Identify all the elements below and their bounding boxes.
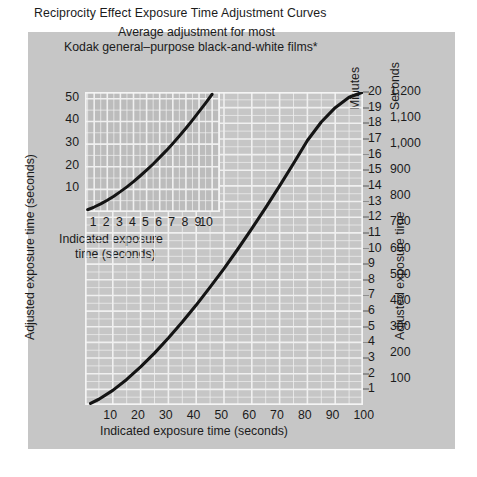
inset-x-tick-label-7: 7 [168,215,175,229]
x-tick-label-main-60: 60 [242,408,256,422]
minute-tick-label-7: 7 [368,287,375,301]
x-tick-label-main-10: 10 [103,408,117,422]
minute-tick-label-3: 3 [368,350,375,364]
second-tick-label-400: 400 [390,293,411,307]
inset-x-tick-label-5: 5 [142,215,149,229]
second-tick-label-900: 900 [390,162,411,176]
second-tick-label-100: 100 [390,371,411,385]
x-tick-label-main-90: 90 [326,408,340,422]
minute-tick-label-9: 9 [368,256,375,270]
minute-tick-label-20: 20 [368,84,382,98]
second-tick-label-300: 300 [390,319,411,333]
second-tick-label-800: 800 [390,188,411,202]
minute-tick-label-15: 15 [368,162,382,176]
x-tick-label-main-20: 20 [131,408,145,422]
inset-x-tick-label-10: 10 [199,215,213,229]
y-tick-label-left-30: 30 [49,135,79,149]
y-tick-label-left-20: 20 [49,158,79,172]
minute-tick-label-19: 19 [368,100,382,114]
minute-tick-label-1: 1 [368,381,375,395]
minute-tick-label-18: 18 [368,115,382,129]
inset-x-tick-label-1: 1 [90,215,97,229]
second-tick-label-700: 700 [390,214,411,228]
minute-tick-label-6: 6 [368,303,375,317]
x-tick-label-main-50: 50 [215,408,229,422]
second-tick-label-600: 600 [390,241,411,255]
inset-curve [88,94,213,209]
x-tick-label-main-70: 70 [270,408,284,422]
y-tick-label-left-50: 50 [49,90,79,104]
inset-x-tick-label-8: 8 [181,215,188,229]
minute-tick-label-5: 5 [368,319,375,333]
x-tick-label-main-80: 80 [298,408,312,422]
minute-tick-label-16: 16 [368,147,382,161]
chart-title: Reciprocity Effect Exposure Time Adjustm… [34,6,327,20]
minute-tick-label-13: 13 [368,194,382,208]
x-tick-label-main-30: 30 [159,408,173,422]
minute-tick-label-11: 11 [368,225,381,239]
y-tick-label-left-40: 40 [49,112,79,126]
minute-tick-label-14: 14 [368,178,382,192]
minute-tick-label-12: 12 [368,209,382,223]
minute-tick-label-2: 2 [368,366,375,380]
x-tick-label-main-40: 40 [187,408,201,422]
inset-x-tick-label-3: 3 [116,215,123,229]
figure-root: Reciprocity Effect Exposure Time Adjustm… [0,0,477,477]
chart-subtitle-line2: Kodak general–purpose black-and-white fi… [64,40,318,54]
inset-plot-area [85,92,220,212]
inset-x-tick-label-4: 4 [129,215,136,229]
x-axis-label-main: Indicated exposure time (seconds) [100,424,288,438]
y-tick-label-left-10: 10 [49,180,79,194]
inset-x-tick-label-6: 6 [155,215,162,229]
chart-subtitle-line1: Average adjustment for most [118,25,275,39]
minute-tick-label-8: 8 [368,272,375,286]
y-axis-label-left: Adjusted exposure time (seconds) [23,154,37,340]
minute-tick-label-10: 10 [368,241,382,255]
inset-x-tick-label-2: 2 [103,215,110,229]
second-tick-label-1100: 1,100 [390,110,421,124]
x-tick-label-main-100: 100 [354,408,375,422]
minute-tick-label-4: 4 [368,334,375,348]
second-tick-label-200: 200 [390,345,411,359]
second-tick-label-1200: 1,200 [390,84,421,98]
minute-tick-label-17: 17 [368,131,382,145]
inset-plot-svg [85,92,220,212]
second-tick-label-500: 500 [390,267,411,281]
second-tick-label-1000: 1,000 [390,136,421,150]
